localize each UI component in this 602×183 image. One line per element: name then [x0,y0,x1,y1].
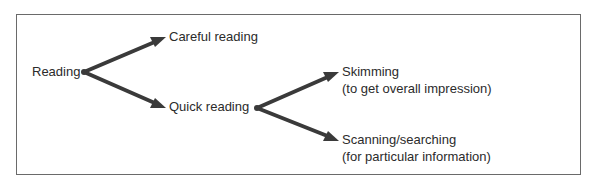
node-scanning-note: (for particular information) [342,148,491,165]
arrows-layer [0,0,602,183]
fork-node-dot [254,105,260,111]
arrow-quick-to-skimming [257,72,339,108]
arrow-reading-to-quick [84,72,166,108]
node-quick-reading: Quick reading [169,98,249,115]
node-careful-reading: Careful reading [169,28,258,45]
node-scanning: Scanning/searching (for particular infor… [342,131,491,165]
node-skimming: Skimming (to get overall impression) [342,63,492,97]
node-skimming-note: (to get overall impression) [342,80,492,97]
node-reading: Reading [32,63,80,80]
node-skimming-label: Skimming [342,63,492,80]
node-quick-reading-label: Quick reading [169,98,249,115]
node-reading-label: Reading [32,63,80,80]
arrow-quick-to-scanning [257,108,339,141]
arrow-reading-to-careful [84,37,166,72]
node-careful-reading-label: Careful reading [169,28,258,45]
fork-node-dot [81,69,87,75]
node-scanning-label: Scanning/searching [342,131,491,148]
